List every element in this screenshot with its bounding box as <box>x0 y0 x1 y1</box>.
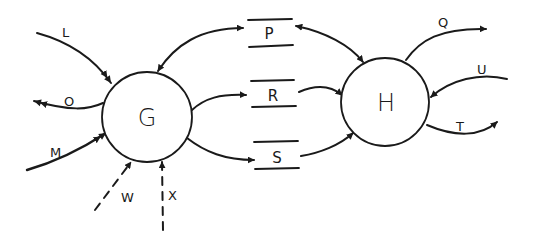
flow-g-s[interactable] <box>187 138 254 160</box>
flow-label-l: L <box>62 25 70 40</box>
flow-s-h[interactable] <box>301 133 353 156</box>
data-flow-diagram: L O M W X Q <box>0 0 535 250</box>
flow-w[interactable]: W <box>95 162 134 210</box>
flow-label-u: U <box>477 62 487 77</box>
flow-label-t: T <box>455 119 464 134</box>
flow-o[interactable]: O <box>34 94 103 109</box>
flow-label-w: W <box>121 190 134 205</box>
flow-x[interactable]: X <box>162 162 177 230</box>
store-label-p: P <box>264 25 273 43</box>
flow-label-q: Q <box>438 15 448 30</box>
process-g[interactable]: G <box>102 72 192 162</box>
flow-q[interactable]: Q <box>406 15 486 60</box>
store-p[interactable]: P <box>248 19 293 47</box>
process-label-g: G <box>138 104 157 132</box>
flow-u[interactable]: U <box>431 62 507 97</box>
flow-label-o: O <box>64 94 74 109</box>
store-label-s: S <box>272 149 282 167</box>
flow-g-r[interactable] <box>192 95 246 110</box>
store-r[interactable]: R <box>251 80 296 107</box>
flow-p-h[interactable] <box>296 26 363 62</box>
process-label-h: H <box>377 89 395 117</box>
store-s[interactable]: S <box>254 141 299 169</box>
flow-t[interactable]: T <box>427 119 497 134</box>
flow-label-x: X <box>168 188 177 203</box>
store-label-r: R <box>268 87 278 105</box>
flow-r-h[interactable] <box>299 87 342 95</box>
flow-g-p[interactable] <box>158 28 243 71</box>
process-h[interactable]: H <box>341 58 429 146</box>
flow-label-m: M <box>50 145 61 160</box>
flow-l[interactable]: L <box>37 25 111 83</box>
flow-m[interactable]: M <box>27 133 106 170</box>
